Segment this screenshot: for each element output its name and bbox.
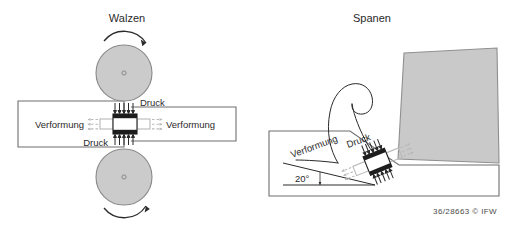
deformation-arrows-left-icon	[88, 118, 99, 130]
panel-title-spanen: Spanen	[353, 12, 391, 24]
label-deformation-right: Verformung	[166, 119, 215, 130]
credit-text: 36/28663 © IFW	[433, 207, 497, 216]
figure-canvas: Walzen	[0, 0, 505, 229]
deformed-element-rolling	[113, 114, 137, 134]
deformation-arrows-right-icon	[152, 118, 163, 130]
label-shear-angle: 20°	[295, 173, 310, 184]
cutting-tool	[398, 48, 499, 163]
label-deformation-left: Verformung	[35, 119, 84, 130]
roller-bottom	[96, 149, 152, 205]
panel-title-walzen: Walzen	[109, 12, 145, 24]
label-pressure-bottom: Druck	[83, 137, 108, 148]
label-pressure-top: Druck	[140, 97, 165, 108]
roller-top	[96, 45, 152, 101]
